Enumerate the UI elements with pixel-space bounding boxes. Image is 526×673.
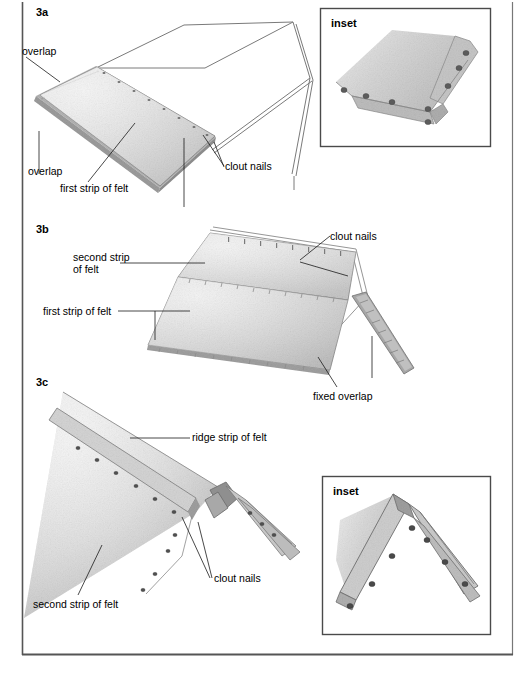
figure-label-3a: 3a — [36, 6, 48, 18]
callout-overlap-bottom-3a: overlap — [28, 165, 62, 178]
ridge-cap-and-right-strip-3c — [205, 482, 300, 560]
callout-ridge-strip-of-felt-3c: ridge strip of felt — [192, 431, 267, 444]
figure-3b-illustration — [118, 227, 414, 387]
inset-top-right-illustration — [321, 9, 491, 147]
inset-label-bottom-right: inset — [333, 485, 359, 497]
fixed-overlap-3b — [352, 292, 414, 374]
roofing-felt-diagram-page: 3a 3b 3c overlap overlap first strip of … — [0, 0, 526, 673]
figure-3a-illustration — [26, 22, 313, 207]
callout-fixed-overlap-3b: fixed overlap — [313, 390, 373, 403]
callout-clout-nails-3c: clout nails — [214, 572, 261, 585]
callout-clout-nails-3b: clout nails — [330, 230, 377, 243]
figure-label-3c: 3c — [36, 376, 48, 388]
inset-bottom-right-illustration — [323, 477, 491, 635]
figure-label-3b: 3b — [36, 223, 49, 235]
callout-second-strip-of-felt-3c: second strip of felt — [33, 598, 118, 611]
callout-second-strip-of-felt-3b-line2: of felt — [73, 263, 99, 276]
callout-overlap-top-3a: overlap — [22, 45, 56, 58]
callout-second-strip-of-felt-3b-line1: second strip — [73, 251, 130, 264]
diagram-canvas — [0, 0, 526, 673]
inset-label-top-right: inset — [331, 17, 357, 29]
callout-first-strip-of-felt-3a: first strip of felt — [60, 182, 128, 195]
callout-clout-nails-3a: clout nails — [225, 160, 272, 173]
callout-first-strip-of-felt-3b: first strip of felt — [43, 305, 111, 318]
